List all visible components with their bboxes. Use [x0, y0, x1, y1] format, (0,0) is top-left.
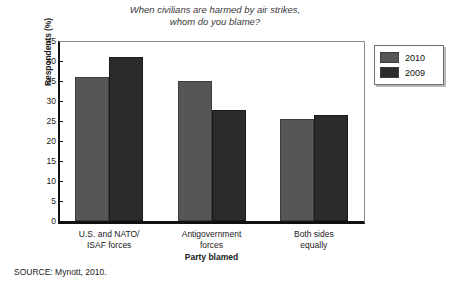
y-tick-mark: [58, 181, 63, 182]
bar-2010-group-1: [75, 77, 109, 221]
y-axis-ticks: 454035302520151050: [34, 41, 56, 224]
y-tick-label: 25: [36, 117, 56, 126]
legend-swatch-2009-icon: [380, 67, 399, 78]
bar-2009-group-3: [314, 115, 348, 221]
x-axis-title: Party blamed: [58, 252, 365, 262]
y-tick-label: 30: [36, 97, 56, 106]
y-tick-mark: [58, 201, 63, 202]
legend-label-2010: 2010: [405, 53, 425, 63]
y-tick-label: 5: [36, 197, 56, 206]
y-tick-label: 0: [36, 217, 56, 226]
bar-2009-group-2: [212, 110, 246, 221]
y-tick-mark: [58, 121, 63, 122]
y-tick-label: 10: [36, 177, 56, 186]
chart-title-line-2: whom do you blame?: [70, 16, 360, 28]
plot-area: [58, 41, 365, 224]
x-category-label-line: equally: [251, 240, 377, 251]
y-tick-mark: [58, 61, 63, 62]
y-tick-mark: [58, 161, 63, 162]
y-tick-mark: [58, 141, 63, 142]
y-tick-label: 40: [36, 57, 56, 66]
x-category-label-line: Both sides: [251, 229, 377, 240]
legend-swatch-2010-icon: [380, 52, 399, 63]
bar-2010-group-2: [178, 81, 212, 221]
chart-title-line-1: When civilians are harmed by air strikes…: [70, 4, 360, 16]
bar-2010-group-3: [280, 119, 314, 221]
y-tick-mark: [58, 101, 63, 102]
chart-legend: 2010 2009: [374, 45, 444, 85]
y-tick-label: 45: [36, 37, 56, 46]
y-tick-label: 20: [36, 137, 56, 146]
legend-label-2009: 2009: [405, 68, 425, 78]
legend-item-2010[interactable]: 2010: [380, 50, 438, 65]
y-tick-label: 15: [36, 157, 56, 166]
bar-2009-group-1: [109, 57, 143, 221]
chart-title: When civilians are harmed by air strikes…: [70, 4, 360, 28]
x-category-label-3: Both sidesequally: [251, 229, 377, 251]
source-note: SOURCE: Mynott, 2010.: [14, 267, 107, 277]
y-tick-mark: [58, 81, 63, 82]
y-tick-label: 35: [36, 77, 56, 86]
legend-item-2009[interactable]: 2009: [380, 65, 438, 80]
